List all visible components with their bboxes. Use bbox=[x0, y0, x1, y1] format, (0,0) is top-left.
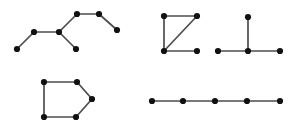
graph-top-left-nodes bbox=[14, 11, 120, 52]
graph-collection-svg bbox=[0, 0, 300, 129]
graph-node bbox=[96, 11, 102, 17]
graph-node bbox=[149, 98, 155, 104]
graph-node bbox=[89, 96, 95, 102]
graph-top-left bbox=[14, 11, 120, 52]
graph-node bbox=[73, 46, 79, 52]
graph-edge bbox=[164, 16, 197, 51]
graph-node bbox=[194, 13, 200, 19]
graph-node bbox=[277, 98, 283, 104]
graph-node bbox=[277, 48, 283, 54]
graph-node bbox=[215, 48, 221, 54]
graph-node bbox=[41, 79, 47, 85]
graph-edge bbox=[17, 32, 34, 49]
graph-node bbox=[180, 98, 186, 104]
graph-node bbox=[245, 14, 251, 20]
graph-node bbox=[14, 46, 20, 52]
graph-edge bbox=[59, 32, 76, 49]
graph-bottom-left-edges bbox=[44, 82, 92, 117]
graph-node bbox=[74, 79, 80, 85]
graph-node bbox=[31, 29, 37, 35]
graph-node bbox=[74, 11, 80, 17]
graph-node bbox=[212, 98, 218, 104]
graph-edge bbox=[77, 82, 92, 99]
graph-node bbox=[41, 114, 47, 120]
graph-top-right bbox=[215, 14, 283, 54]
graph-node bbox=[244, 98, 250, 104]
graph-top-right-nodes bbox=[215, 14, 283, 54]
graph-top-right-edges bbox=[218, 17, 280, 51]
graph-node bbox=[56, 29, 62, 35]
graph-node bbox=[245, 48, 251, 54]
graph-node bbox=[161, 48, 167, 54]
graph-node bbox=[114, 27, 120, 33]
diagram-canvas bbox=[0, 0, 300, 129]
graph-bottom-right bbox=[149, 98, 283, 104]
graph-node bbox=[161, 13, 167, 19]
graph-top-middle-edges bbox=[164, 16, 197, 51]
graph-bottom-left bbox=[41, 79, 95, 120]
graph-edge bbox=[59, 14, 77, 32]
graph-bottom-left-nodes bbox=[41, 79, 95, 120]
graph-node bbox=[73, 114, 79, 120]
graph-edge bbox=[76, 99, 92, 117]
graph-edge bbox=[99, 14, 117, 30]
graph-node bbox=[194, 48, 200, 54]
graph-top-middle bbox=[161, 13, 200, 54]
